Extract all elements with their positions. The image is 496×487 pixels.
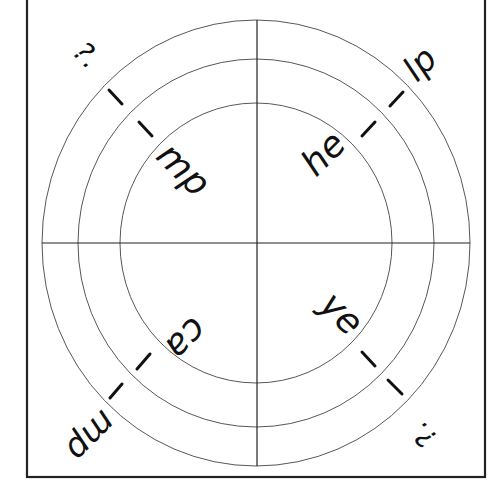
blank-dash bbox=[139, 122, 152, 136]
blank-dash bbox=[362, 122, 375, 136]
outer-label: lp bbox=[394, 38, 444, 88]
blank-dash bbox=[388, 380, 402, 394]
outer-label: ?. bbox=[403, 415, 443, 455]
inner-label: ye bbox=[311, 283, 371, 343]
quadrant-bottom-right: ye ?. bbox=[311, 283, 443, 455]
outer-label: ?. bbox=[67, 35, 107, 75]
sound-wheel-diagram: mp ?. he lp ca mp ye ?. bbox=[0, 0, 496, 487]
blank-dash bbox=[109, 90, 122, 104]
blank-dash bbox=[137, 354, 150, 369]
outer-label: mp bbox=[58, 403, 125, 470]
quadrant-top-right: he lp bbox=[293, 38, 445, 183]
blank-dash bbox=[390, 92, 403, 106]
blank-dash bbox=[110, 384, 122, 398]
inner-label: ca bbox=[158, 310, 217, 369]
inner-label: he bbox=[293, 123, 354, 184]
blank-dash bbox=[362, 352, 375, 366]
quadrant-bottom-left: ca mp bbox=[58, 310, 216, 470]
